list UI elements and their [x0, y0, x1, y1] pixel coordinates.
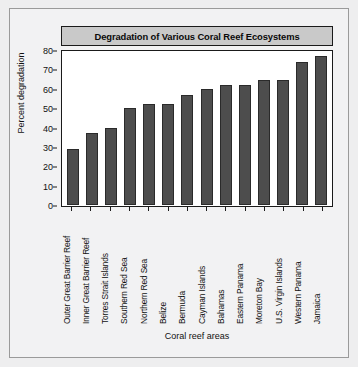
- x-tick-mark: [245, 207, 246, 211]
- bar-slot: [254, 52, 273, 205]
- x-tick-slot: [216, 207, 235, 211]
- x-label-slot: Torres Strait Islands: [101, 212, 120, 324]
- x-label-slot: Moreton Bay: [255, 212, 274, 324]
- bar: [315, 56, 327, 205]
- y-tick-label: 50: [43, 104, 53, 114]
- x-tick-label: Western Panama: [293, 262, 303, 324]
- bar: [67, 149, 79, 205]
- x-tick-label: Outer Great Barrier Reef: [62, 236, 72, 324]
- x-tick-slot: [81, 207, 100, 211]
- bar-slot: [197, 52, 216, 205]
- x-label-slot: U.S. Virgin Islands: [274, 212, 293, 324]
- y-tick-mark: [53, 51, 57, 52]
- x-tick-slot: [313, 207, 332, 211]
- bar-slot: [140, 52, 159, 205]
- y-tick-label: 20: [43, 162, 53, 172]
- x-tick-mark: [71, 207, 72, 211]
- x-label-slot: Jamaica: [313, 212, 332, 324]
- bar: [296, 62, 308, 205]
- x-tick-mark: [187, 207, 188, 211]
- x-axis-ticks: [62, 207, 332, 211]
- x-tick-label: U.S. Virgin Islands: [274, 258, 284, 324]
- bar: [162, 104, 174, 205]
- bar-slot: [120, 52, 139, 205]
- y-tick-label: 10: [43, 182, 53, 192]
- x-label-slot: Southern Red Sea: [120, 212, 139, 324]
- bar-slot: [82, 52, 101, 205]
- x-tick-mark: [303, 207, 304, 211]
- x-tick-mark: [322, 207, 323, 211]
- bar-slot: [274, 52, 293, 205]
- x-tick-label: Belize: [158, 302, 168, 324]
- bar-slot: [63, 52, 82, 205]
- x-tick-label: Eastern Panama: [235, 264, 245, 324]
- y-tick-mark: [53, 109, 57, 110]
- x-tick-label: Bermuda: [177, 291, 187, 324]
- x-tick-label: Bahamas: [216, 290, 226, 324]
- bar: [86, 133, 98, 205]
- bar-series: [63, 52, 331, 205]
- y-tick-mark: [53, 128, 57, 129]
- x-tick-mark: [148, 207, 149, 211]
- y-tick-label: 60: [43, 85, 53, 95]
- x-tick-slot: [197, 207, 216, 211]
- x-tick-label: Jamaica: [312, 294, 322, 324]
- x-tick-slot: [120, 207, 139, 211]
- x-label-slot: Bahamas: [216, 212, 235, 324]
- bar: [277, 80, 289, 205]
- x-label-slot: Northern Red Sea: [139, 212, 158, 324]
- chart-title: Degradation of Various Coral Reef Ecosys…: [61, 26, 333, 46]
- bar: [201, 89, 213, 205]
- y-tick-label: 70: [43, 65, 53, 75]
- x-label-slot: Outer Great Barrier Reef: [62, 212, 81, 324]
- x-tick-slot: [178, 207, 197, 211]
- plot-area: [61, 50, 333, 207]
- x-label-slot: Bermuda: [178, 212, 197, 324]
- bar-slot: [101, 52, 120, 205]
- y-tick-label: 40: [43, 124, 53, 134]
- y-tick-mark: [53, 186, 57, 187]
- x-tick-label: Moreton Bay: [254, 278, 264, 324]
- x-tick-slot: [236, 207, 255, 211]
- bar-slot: [235, 52, 254, 205]
- bar: [220, 85, 232, 205]
- x-tick-slot: [255, 207, 274, 211]
- x-tick-label: Southern Red Sea: [119, 257, 129, 324]
- plot-inner: [62, 51, 332, 206]
- x-tick-mark: [129, 207, 130, 211]
- bar: [124, 108, 136, 205]
- bar: [181, 95, 193, 205]
- x-tick-mark: [110, 207, 111, 211]
- bar: [105, 128, 117, 206]
- x-tick-mark: [90, 207, 91, 211]
- bar: [258, 80, 270, 205]
- x-label-slot: Cayman Islands: [197, 212, 216, 324]
- y-tick-label: 30: [43, 143, 53, 153]
- x-tick-slot: [139, 207, 158, 211]
- bar: [239, 85, 251, 205]
- x-label-slot: Western Panama: [293, 212, 312, 324]
- x-label-slot: Belize: [158, 212, 177, 324]
- bar-slot: [293, 52, 312, 205]
- chart-figure: Degradation of Various Coral Reef Ecosys…: [0, 0, 358, 367]
- bar-slot: [312, 52, 331, 205]
- x-tick-slot: [293, 207, 312, 211]
- x-label-slot: Eastern Panama: [236, 212, 255, 324]
- x-tick-label: Torres Strait Islands: [100, 253, 110, 324]
- x-tick-slot: [274, 207, 293, 211]
- x-tick-label: Cayman Islands: [197, 266, 207, 324]
- bar-slot: [159, 52, 178, 205]
- y-tick-mark: [53, 147, 57, 148]
- x-axis-title: Coral reef areas: [61, 331, 333, 341]
- y-tick-mark: [53, 167, 57, 168]
- bar-slot: [216, 52, 235, 205]
- x-tick-slot: [158, 207, 177, 211]
- x-tick-label: Inner Great Barrier Reef: [81, 238, 91, 324]
- x-axis-labels: Outer Great Barrier ReefInner Great Barr…: [62, 212, 332, 324]
- x-tick-mark: [168, 207, 169, 211]
- x-tick-label: Northern Red Sea: [139, 259, 149, 324]
- bar-slot: [178, 52, 197, 205]
- x-tick-mark: [206, 207, 207, 211]
- x-tick-mark: [264, 207, 265, 211]
- x-tick-slot: [101, 207, 120, 211]
